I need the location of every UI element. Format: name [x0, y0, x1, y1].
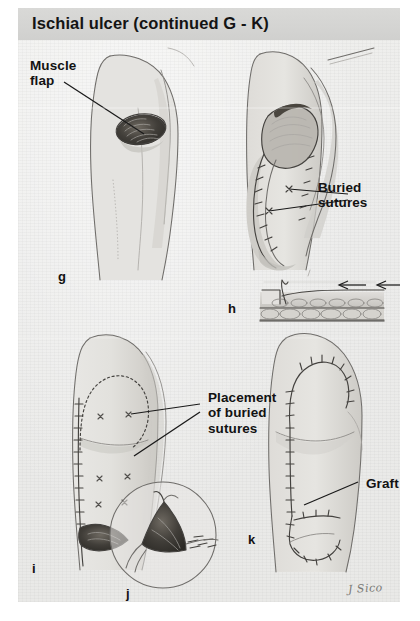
panel-letter-j: j — [126, 586, 130, 601]
panel-letter-i: i — [32, 561, 36, 576]
label-placement-buried-sutures: Placement of buried sutures — [208, 390, 276, 436]
label-muscle-flap: Muscle flap — [30, 58, 76, 89]
panel-k-artwork — [269, 334, 362, 572]
panel-g2-artwork — [246, 48, 374, 271]
panel-j-artwork — [110, 482, 218, 588]
panel-h-artwork — [260, 270, 400, 321]
figure-title-band: Ischial ulcer (continued G - K) — [18, 8, 400, 40]
figure-page: Ischial ulcer (continued G - K) Muscle f… — [0, 0, 420, 621]
panel-g-artwork — [64, 48, 194, 280]
figure-title: Ischial ulcer (continued G - K) — [32, 14, 269, 33]
label-graft: Graft — [366, 476, 399, 491]
panel-letter-g: g — [58, 269, 66, 284]
label-buried-sutures: Buried sutures — [318, 180, 367, 211]
artist-signature: J Sico — [348, 581, 383, 596]
illustration-plate: Ischial ulcer (continued G - K) Muscle f… — [18, 8, 400, 602]
panel-letter-k: k — [248, 532, 255, 547]
panel-letter-h: h — [228, 301, 236, 316]
medical-illustration-artwork — [18, 8, 400, 602]
